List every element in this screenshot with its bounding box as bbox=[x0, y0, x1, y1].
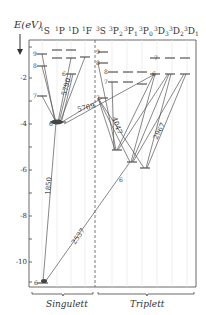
col-3D1: 3D1 bbox=[184, 25, 199, 37]
col-3P1: 3P1 bbox=[124, 25, 138, 37]
col-3D2: 3D2 bbox=[169, 25, 184, 37]
energy-levels bbox=[37, 50, 190, 283]
wavelength-labels: 5790 5769 4047 2967 1850 2537 bbox=[44, 77, 167, 246]
col-3P0: 3P0 bbox=[139, 25, 153, 37]
label-1850: 1850 bbox=[44, 177, 54, 195]
col-1F: 1F bbox=[82, 25, 92, 36]
svg-text:8: 8 bbox=[96, 59, 100, 66]
col-3S: 3S bbox=[96, 25, 106, 36]
svg-text:7: 7 bbox=[104, 78, 108, 85]
transition-nodes bbox=[41, 120, 63, 284]
column-headers: 1S 1P 1D 1F 3S 3P2 3P1 3P0 3D3 3D2 3D1 bbox=[40, 25, 199, 37]
svg-text:9: 9 bbox=[33, 50, 37, 57]
tick-neg4: -4 bbox=[20, 120, 27, 128]
singlet-group-label: Singulett bbox=[46, 299, 88, 309]
group-braces bbox=[32, 292, 194, 296]
svg-text:7: 7 bbox=[33, 92, 37, 99]
tick-neg6: -6 bbox=[20, 166, 27, 174]
label-2537: 2537 bbox=[70, 227, 87, 246]
svg-text:9: 9 bbox=[96, 48, 100, 55]
col-1S: 1S bbox=[40, 25, 50, 36]
col-1P: 1P bbox=[55, 25, 65, 36]
svg-text:6: 6 bbox=[62, 70, 66, 77]
col-1D: 1D bbox=[68, 25, 79, 36]
triplet-group-label: Triplett bbox=[130, 299, 164, 309]
column-guides bbox=[42, 40, 187, 287]
col-3D3: 3D3 bbox=[154, 25, 169, 37]
tick-neg2: -2 bbox=[20, 74, 27, 82]
tick-neg10: -10 bbox=[16, 258, 27, 266]
svg-text:6: 6 bbox=[34, 279, 38, 286]
col-3P2: 3P2 bbox=[109, 25, 123, 37]
svg-text:7: 7 bbox=[154, 54, 158, 61]
plot-frame bbox=[29, 40, 196, 287]
svg-text:6: 6 bbox=[152, 70, 156, 77]
tick-neg8: -8 bbox=[20, 212, 27, 220]
y-axis-tick-labels: -2 -4 -6 -8 -10 bbox=[16, 74, 28, 266]
down-arrow-icon bbox=[17, 34, 23, 55]
y-axis-ticks bbox=[29, 47, 32, 282]
label-2967: 2967 bbox=[152, 121, 167, 140]
svg-text:8: 8 bbox=[104, 68, 108, 75]
svg-text:8: 8 bbox=[33, 62, 37, 69]
